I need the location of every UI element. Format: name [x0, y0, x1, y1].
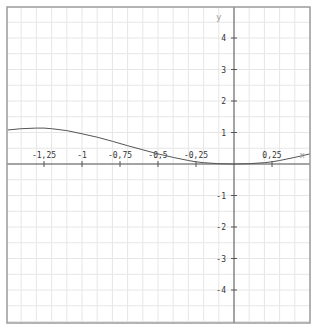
- x-tick-label: -0,25: [184, 151, 208, 160]
- y-axis-label: y: [216, 12, 222, 22]
- y-tick-label: 1: [221, 129, 226, 138]
- x-axis-label: x: [300, 150, 306, 160]
- y-tick-label: -4: [216, 286, 226, 295]
- y-tick-label: 4: [221, 34, 226, 43]
- y-tick-label: -3: [216, 255, 226, 264]
- y-tick-label: 3: [221, 66, 226, 75]
- y-tick-label: 2: [221, 97, 226, 106]
- y-tick-label: -1: [216, 192, 226, 201]
- x-tick-label: -0,75: [108, 151, 132, 160]
- x-tick-label: 0,25: [262, 151, 281, 160]
- x-tick-label: -1: [77, 151, 87, 160]
- y-tick-label: -2: [216, 223, 226, 232]
- x-tick-label: -1,25: [32, 151, 56, 160]
- function-plot: -1,25-1-0,75-0,5-0,250,254321-1-2-3-4 x …: [0, 0, 315, 331]
